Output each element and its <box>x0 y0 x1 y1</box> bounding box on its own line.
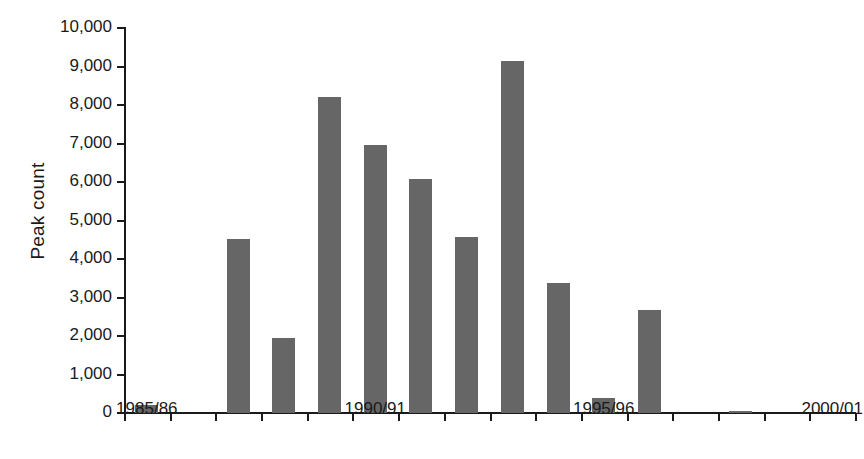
x-axis-tick <box>307 413 309 421</box>
y-axis-title: Peak count <box>27 111 49 311</box>
y-axis-tick <box>117 258 124 260</box>
x-axis-tick-label: 1990/91 <box>345 399 406 419</box>
y-axis-tick <box>117 27 124 29</box>
x-axis-tick-label: 1985/86 <box>116 399 177 419</box>
bar <box>272 338 295 413</box>
plot-area: 01,0002,0003,0004,0005,0006,0007,0008,00… <box>124 28 855 413</box>
y-axis-tick <box>117 374 124 376</box>
bar <box>455 237 478 413</box>
x-axis-tick <box>261 413 263 421</box>
bar <box>227 239 250 413</box>
bar <box>364 145 387 413</box>
bar <box>409 179 432 413</box>
x-axis-tick-label: 2000/01 <box>801 399 862 419</box>
y-axis-tick <box>117 220 124 222</box>
x-axis-tick <box>490 413 492 421</box>
x-axis-tick <box>444 413 446 421</box>
x-axis-tick <box>672 413 674 421</box>
bar <box>318 97 341 413</box>
bar <box>638 310 661 413</box>
x-axis-tick <box>718 413 720 421</box>
y-axis-tick <box>117 143 124 145</box>
bar <box>547 283 570 413</box>
x-axis-tick <box>764 413 766 421</box>
x-axis-tick <box>215 413 217 421</box>
y-axis-tick <box>117 181 124 183</box>
bar-chart: Peak count 01,0002,0003,0004,0005,0006,0… <box>0 0 864 459</box>
bar <box>501 61 524 413</box>
x-axis-tick <box>535 413 537 421</box>
y-axis-tick <box>117 66 124 68</box>
bar <box>729 411 752 413</box>
x-axis-tick-label: 1995/96 <box>573 399 634 419</box>
y-axis-tick <box>117 104 124 106</box>
y-axis-tick <box>117 297 124 299</box>
y-axis-tick <box>117 335 124 337</box>
